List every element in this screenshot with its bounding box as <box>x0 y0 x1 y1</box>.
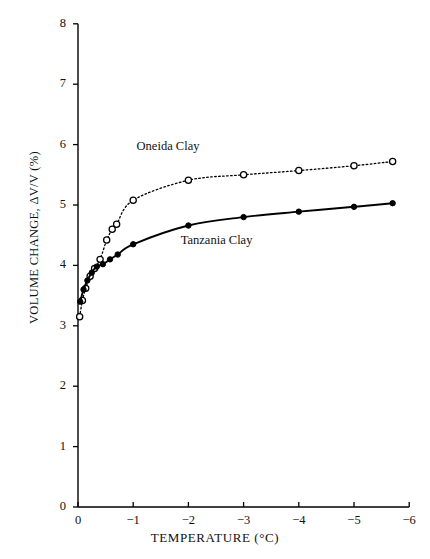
y-axis-title: VOLUME CHANGE, ΔV/V (%) <box>27 108 42 368</box>
x-tick-label-1: −1 <box>120 513 146 528</box>
x-axis-title: TEMPERATURE (°C) <box>0 530 430 546</box>
data-point <box>104 237 110 243</box>
data-point <box>351 204 356 209</box>
data-point <box>78 299 83 304</box>
data-point <box>390 158 396 164</box>
x-tick-label-2: −2 <box>175 513 201 528</box>
series-tanzania-clay <box>78 200 396 304</box>
x-tick-label-6: −6 <box>396 513 422 528</box>
series-label-tanzania-clay: Tanzania Clay <box>181 233 253 248</box>
data-point <box>241 172 247 178</box>
x-tick-label-0: 0 <box>65 513 91 528</box>
chart-figure: VOLUME CHANGE, ΔV/V (%) TEMPERATURE (°C)… <box>0 0 430 559</box>
series-label-oneida-clay: Oneida Clay <box>137 139 200 154</box>
y-tick-label-6: 6 <box>44 137 66 152</box>
y-tick-label-0: 0 <box>44 499 66 514</box>
data-point <box>114 221 120 227</box>
data-point <box>100 261 105 266</box>
data-point <box>131 242 136 247</box>
y-tick-label-4: 4 <box>44 257 66 272</box>
y-tick-label-5: 5 <box>44 197 66 212</box>
x-tick-label-3: −3 <box>231 513 257 528</box>
data-point <box>107 257 112 262</box>
series-line <box>80 203 392 301</box>
data-point <box>94 264 99 269</box>
data-point <box>85 278 90 283</box>
x-tick-label-4: −4 <box>286 513 312 528</box>
x-tick-label-5: −5 <box>341 513 367 528</box>
data-point <box>296 167 302 173</box>
y-tick-label-1: 1 <box>44 439 66 454</box>
data-point <box>186 223 191 228</box>
data-point <box>130 197 136 203</box>
data-point <box>241 214 246 219</box>
data-point <box>115 252 120 257</box>
axes <box>73 24 409 507</box>
data-point <box>89 270 94 275</box>
data-point <box>390 200 395 205</box>
data-point <box>351 163 357 169</box>
y-tick-label-3: 3 <box>44 318 66 333</box>
y-tick-label-2: 2 <box>44 378 66 393</box>
data-point <box>77 314 83 320</box>
data-point <box>81 287 86 292</box>
y-tick-label-7: 7 <box>44 76 66 91</box>
y-tick-label-8: 8 <box>44 16 66 31</box>
data-point <box>185 177 191 183</box>
data-point <box>296 209 301 214</box>
